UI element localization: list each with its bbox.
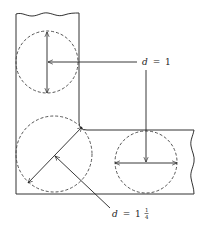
corner-diameter-arrow [28, 127, 82, 183]
fraction-denominator: 4 [145, 214, 149, 220]
l-section-diagram: d = 1 d = 1 1 4 [0, 0, 205, 234]
fraction-numerator: 1 [145, 207, 149, 213]
inner-edge-with-fillet [79, 13, 194, 130]
upper-dimension-label: d = 1 [142, 57, 171, 67]
corner-dimension-label: d = 1 [112, 209, 141, 219]
top-break-line [16, 13, 79, 16]
corner-leader-arrow [55, 156, 110, 208]
right-break-line [191, 130, 194, 194]
section-outline [16, 13, 194, 194]
